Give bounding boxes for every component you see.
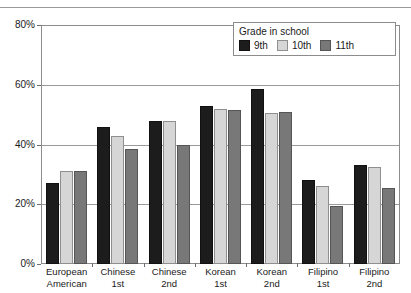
bar-chart: 0%20%40%60%80% EuropeanAmericanChinese1s…	[0, 0, 411, 293]
y-axis: 0%20%40%60%80%	[0, 25, 41, 264]
legend-label: 10th	[292, 40, 311, 51]
y-tick-label: 60%	[0, 79, 41, 91]
bar	[279, 112, 292, 264]
bar	[228, 110, 241, 264]
bar	[125, 149, 138, 264]
legend-item[interactable]: 10th	[277, 40, 311, 51]
y-tick-label: 0%	[0, 258, 41, 270]
legend-items: 9th10th11th	[239, 40, 390, 51]
bar	[163, 121, 176, 264]
y-tick-label: 80%	[0, 19, 41, 31]
legend: Grade in school 9th10th11th	[233, 22, 396, 56]
bar-group	[41, 25, 92, 264]
x-tick-mark	[195, 263, 196, 267]
x-tick-label-line: Filipino	[308, 266, 338, 277]
bar-group	[144, 25, 195, 264]
bar-group	[246, 25, 297, 264]
x-tick-mark	[92, 263, 93, 267]
x-tick-label-line: European	[46, 266, 87, 277]
x-tick-mark	[297, 263, 298, 267]
x-tick-label-line: Korean	[205, 266, 236, 277]
bar	[97, 127, 110, 264]
bar	[368, 167, 381, 264]
x-tick-label-line: 1st	[92, 278, 143, 290]
bars-layer	[41, 25, 400, 264]
bar	[149, 121, 162, 264]
bar	[302, 180, 315, 264]
x-tick-label-line: Filipino	[359, 266, 389, 277]
bar	[316, 186, 329, 264]
x-tick-label-line: Chinese	[100, 266, 135, 277]
x-tick-label-line: 2nd	[246, 278, 297, 290]
bar	[354, 165, 367, 264]
x-tick-label: Korean2nd	[246, 266, 297, 290]
x-tick-label: Chinese2nd	[144, 266, 195, 290]
bar	[177, 145, 190, 265]
x-tick-label-line: American	[41, 278, 92, 290]
bar	[382, 188, 395, 264]
x-tick-label-line: 2nd	[349, 278, 400, 290]
bar	[46, 183, 59, 264]
title-divider	[0, 7, 411, 8]
clipped-title-strip	[0, 0, 411, 9]
bar	[200, 106, 213, 264]
bar-group	[297, 25, 348, 264]
legend-swatch	[239, 40, 250, 51]
x-tick-label: EuropeanAmerican	[41, 266, 92, 290]
legend-item[interactable]: 9th	[239, 40, 268, 51]
x-axis-labels: EuropeanAmericanChinese1stChinese2ndKore…	[41, 266, 400, 293]
legend-swatch	[277, 40, 288, 51]
x-tick-label: Filipino2nd	[349, 266, 400, 290]
x-tick-label-line: Chinese	[152, 266, 187, 277]
x-tick-label: Filipino1st	[297, 266, 348, 290]
y-tick-label: 20%	[0, 198, 41, 210]
x-tick-label-line: 1st	[297, 278, 348, 290]
x-tick-mark	[349, 263, 350, 267]
bar	[111, 136, 124, 264]
bar	[251, 89, 264, 264]
legend-item[interactable]: 11th	[320, 40, 354, 51]
x-tick-label-line: 1st	[195, 278, 246, 290]
bar	[330, 206, 343, 264]
x-tick-label: Korean1st	[195, 266, 246, 290]
x-tick-label: Chinese1st	[92, 266, 143, 290]
bar	[74, 171, 87, 264]
bar-group	[195, 25, 246, 264]
legend-swatch	[320, 40, 331, 51]
legend-label: 9th	[254, 40, 268, 51]
x-tick-label-line: 2nd	[144, 278, 195, 290]
y-tick-mark	[37, 264, 41, 265]
bar-group	[92, 25, 143, 264]
legend-label: 11th	[335, 40, 354, 51]
y-tick-label: 40%	[0, 139, 41, 151]
bar	[60, 171, 73, 264]
bar	[214, 109, 227, 264]
legend-title: Grade in school	[239, 26, 390, 37]
x-tick-label-line: Korean	[256, 266, 287, 277]
bar-group	[349, 25, 400, 264]
x-tick-mark	[246, 263, 247, 267]
bar	[265, 113, 278, 264]
x-tick-mark	[144, 263, 145, 267]
